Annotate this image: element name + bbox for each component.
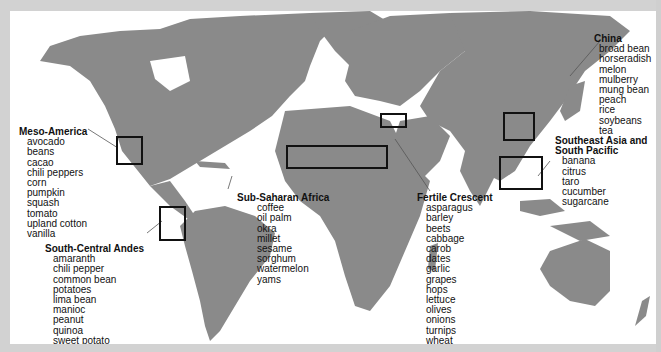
region-southeast-asia-south-pacific: Southeast Asia and South Pacific banana … (562, 136, 647, 207)
region-meso-america: Meso-America avocado beans cacao chili p… (27, 127, 87, 239)
region-sub-saharan-africa: Sub-Saharan Africa coffee oil palm okra … (257, 193, 329, 285)
crop-item: yams (257, 275, 329, 285)
central-america-landmass (150, 181, 195, 219)
region-south-central-andes: South-Central Andes amaranth chili peppe… (53, 244, 144, 344)
frame-edge (656, 0, 661, 352)
region-china: China broad bean horseradish melon mulbe… (599, 34, 651, 136)
crop-item: sugarcane (562, 197, 647, 207)
world-map: Meso-America avocado beans cacao chili p… (10, 11, 656, 344)
crop-item: vanilla (27, 229, 87, 239)
australia-landmass (540, 239, 610, 306)
region-fertile-crescent: Fertile Crescent asparagus barley beets … (426, 193, 493, 344)
crop-item: sweet potato (53, 336, 144, 344)
crop-item: wheat (426, 336, 493, 344)
